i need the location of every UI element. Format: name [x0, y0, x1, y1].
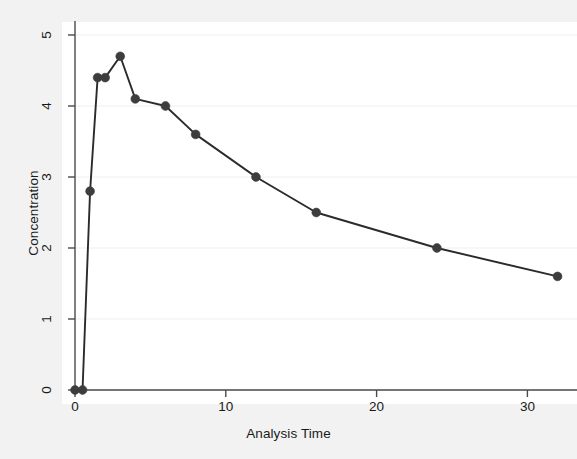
chart-plot-area: [0, 0, 577, 459]
data-point-4: [101, 73, 110, 82]
data-point-6: [131, 95, 140, 104]
x-axis-title: Analysis Time: [0, 426, 577, 441]
data-point-12: [553, 272, 562, 281]
data-point-10: [312, 208, 321, 217]
data-point-8: [191, 130, 200, 139]
data-point-9: [252, 173, 261, 182]
data-markers-group: [71, 52, 562, 395]
chart-figure: 0102030 012345 Analysis Time Concentrati…: [0, 0, 577, 459]
tick-marks-group: [68, 35, 527, 397]
data-point-1: [78, 386, 87, 395]
x-tick-label-30: 30: [497, 399, 557, 414]
gridlines-group: [75, 35, 577, 390]
x-tick-label-10: 10: [196, 399, 256, 414]
data-point-5: [116, 52, 125, 61]
data-point-7: [161, 102, 170, 111]
x-tick-label-20: 20: [347, 399, 407, 414]
y-axis-title: Concentration: [26, 22, 46, 404]
data-point-2: [86, 187, 95, 196]
data-point-11: [433, 244, 442, 253]
axis-lines-group: [74, 21, 577, 390]
